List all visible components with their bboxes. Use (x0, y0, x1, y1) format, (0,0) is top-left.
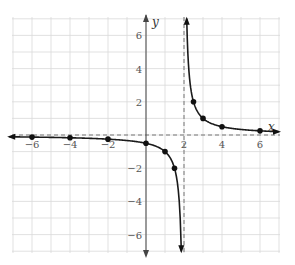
data-point (172, 165, 178, 171)
left-branch-curve (9, 137, 181, 251)
graph-of-rational-function: −6−4−2246−6−4−2246 y x (0, 0, 295, 265)
y-axis-up-arrow-icon (143, 14, 149, 22)
y-tick-label: −2 (127, 163, 142, 174)
x-tick-label: 6 (257, 139, 263, 150)
right-branch-right-arrow-icon (273, 129, 281, 135)
y-tick-label: 6 (136, 30, 142, 41)
x-tick-label: −4 (63, 139, 78, 150)
left-branch-left-arrow-icon (7, 134, 15, 140)
x-tick-label: 4 (219, 139, 225, 150)
data-point (219, 124, 225, 130)
y-axis-label: y (151, 15, 159, 29)
y-tick-label: −6 (127, 230, 142, 241)
right-branch-up-arrow-icon (184, 17, 190, 25)
y-tick-label: 2 (136, 97, 142, 108)
x-tick-label: 2 (181, 139, 187, 150)
data-point (162, 149, 168, 155)
data-point (67, 135, 73, 141)
data-point (143, 141, 149, 147)
y-tick-label: −4 (127, 196, 142, 207)
data-point (257, 128, 263, 134)
tick-labels: −6−4−2246−6−4−2246 (25, 30, 264, 240)
y-tick-label: 4 (136, 64, 142, 75)
data-point (191, 99, 197, 105)
x-tick-label: −6 (25, 139, 40, 150)
left-branch-down-arrow-icon (178, 245, 184, 253)
axes (143, 14, 149, 258)
y-axis-down-arrow-icon (143, 250, 149, 258)
data-point (200, 116, 206, 122)
data-point (29, 134, 35, 140)
data-point (105, 136, 111, 142)
